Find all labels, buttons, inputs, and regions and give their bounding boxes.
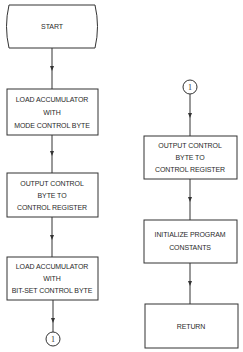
step-line: BIT-SET CONTROL BYTE [12,287,93,294]
step-line: BYTE TO [176,154,206,161]
on-page-connector: 1 [183,80,197,94]
step-line: OUTPUT CONTROL [20,180,84,187]
step-line: OUTPUT CONTROL [158,142,222,149]
off-page-connector: 1 [46,332,60,346]
step-load-accumulator-bitset: LOAD ACCUMULATOR WITH BIT-SET CONTROL BY… [7,257,98,300]
return-terminal: RETURN [145,304,238,348]
flow-arrow [188,263,192,304]
step-initialize-constants: INITIALIZE PROGRAM CONSTANTS [144,220,237,263]
flow-arrow [188,179,192,220]
flow-arrow [50,217,54,257]
step-line: WITH [43,275,61,282]
step-line: CONTROL REGISTER [155,166,225,173]
return-label: RETURN [177,323,206,330]
flowchart: START LOAD ACCUMULATOR WITH MODE CONTROL… [0,0,243,352]
step-line: LOAD ACCUMULATOR [16,263,88,270]
step-load-accumulator-mode: LOAD ACCUMULATOR WITH MODE CONTROL BYTE [7,89,98,135]
step-line: BYTE TO [38,192,68,199]
connector-label: 1 [188,83,192,92]
connector-label: 1 [51,335,55,344]
step-line: INITIALIZE PROGRAM [155,231,226,238]
flow-arrow [51,300,55,332]
flow-arrow [50,135,54,173]
flow-arrow [188,94,192,136]
start-label: START [41,23,64,30]
start-terminal: START [7,5,98,48]
step-line: LOAD ACCUMULATOR [16,96,88,103]
step-line: MODE CONTROL BYTE [14,122,90,129]
step-output-control-byte-2: OUTPUT CONTROL BYTE TO CONTROL REGISTER [144,136,237,179]
flow-arrow [50,48,54,89]
step-line: CONSTANTS [169,244,211,251]
step-line: WITH [43,109,61,116]
step-line: CONTROL REGISTER [17,204,87,211]
step-output-control-byte: OUTPUT CONTROL BYTE TO CONTROL REGISTER [7,173,98,217]
